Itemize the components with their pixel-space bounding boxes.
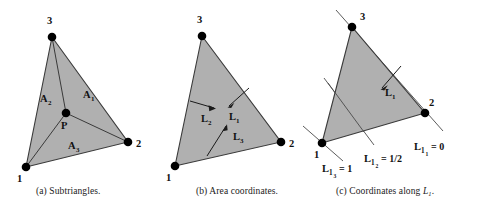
panel-a-vertex-2-label: 2	[136, 138, 141, 149]
panel-a-vertex-1-dot	[22, 163, 31, 172]
panel-c-level-l11-letter: L	[414, 141, 421, 152]
panel-a-vertex-3-dot	[48, 33, 57, 42]
panel-c-level-l12-value: = 1/2	[381, 153, 402, 164]
caption-b-prefix: (b)	[196, 186, 207, 196]
panel-a-area-a1-subscript: 1	[91, 95, 95, 103]
panel-b-vertex-3-label: 3	[197, 14, 202, 25]
panel-a-point-p-dot	[62, 109, 71, 118]
caption-panel-c: (c) Coordinates along L1.	[336, 186, 434, 197]
panel-c-gradient-l1-letter: L	[385, 87, 392, 98]
panel-b-coord-l1-subscript: 1	[236, 117, 240, 125]
panel-c-level-label-l11: L 1 1 = 0	[414, 141, 444, 157]
panel-c-coordinates-along-l1: 1 2 3 L 1 L 1 3 = 1 L 1 2 = 1/2 L 1 1 = …	[303, 10, 444, 179]
caption-panel-a: (a) Subtriangles.	[36, 186, 101, 196]
panel-c-vertex-1-dot	[318, 139, 327, 148]
panel-c-gradient-l1-subscript: 1	[392, 93, 396, 101]
caption-c-prefix: (c)	[336, 186, 347, 196]
panel-a-area-a3-letter: A	[68, 140, 76, 151]
panel-a-area-a1-letter: A	[83, 89, 91, 100]
panel-c-vertex-2-dot	[421, 109, 430, 118]
panel-c-level-l11-subscript: 1	[421, 147, 425, 155]
panel-c-level-l13-letter: L	[322, 163, 329, 174]
panel-a-point-p-label: P	[61, 120, 68, 131]
caption-panel-b: (b) Area coordinates.	[196, 186, 278, 196]
panel-c-vertex-3-label: 3	[360, 11, 365, 22]
panel-b-vertex-1-label: 1	[166, 172, 171, 183]
panel-b-coord-l3-letter: L	[233, 131, 240, 142]
panel-a-area-a3-subscript: 3	[76, 146, 80, 154]
panel-c-level-label-l12: L 1 2 = 1/2	[364, 153, 402, 169]
caption-c-text: Coordinates along	[349, 186, 420, 196]
panel-c-level-label-l13: L 1 3 = 1	[322, 163, 352, 179]
panel-b-coord-l2-letter: L	[201, 113, 208, 124]
panel-c-level-l13-subscript: 1	[329, 169, 333, 177]
panel-b-coord-l3-subscript: 3	[240, 137, 244, 145]
panel-c-level-l11-subsubscript: 1	[426, 151, 429, 157]
panel-b-vertex-2-dot	[277, 138, 286, 147]
panel-b-vertex-1-dot	[171, 162, 180, 171]
panel-b-area-coordinates: 1 2 3 L 1 L 2 L 3	[166, 14, 294, 183]
panel-c-level-l11-value: = 0	[431, 141, 444, 152]
panel-a-area-a2-subscript: 2	[48, 99, 52, 107]
panel-c-triangle	[322, 27, 425, 143]
panel-a-subtriangles: 1 2 3 P A 1 A 2 A 3	[17, 15, 141, 184]
panel-b-coord-l1-letter: L	[229, 111, 236, 122]
caption-c-suffix: .	[432, 186, 434, 196]
caption-b-text: Area coordinates.	[209, 186, 278, 196]
panel-a-vertex-3-label: 3	[47, 15, 52, 26]
panel-c-level-l12-letter: L	[364, 153, 371, 164]
figure-canvas: 1 2 3 P A 1 A 2 A 3 1 2 3	[0, 0, 477, 209]
panel-c-level-l13-subsubscript: 3	[334, 173, 337, 179]
panel-c-vertex-3-dot	[348, 23, 357, 32]
panel-b-coord-l2-subscript: 2	[208, 119, 212, 127]
panel-c-vertex-2-label: 2	[429, 97, 434, 108]
panel-c-level-l12-subscript: 1	[371, 159, 375, 167]
panel-a-vertex-1-label: 1	[17, 173, 22, 184]
panel-b-vertex-2-label: 2	[289, 138, 294, 149]
panel-a-area-a2-letter: A	[40, 93, 48, 104]
caption-a-text: Subtriangles.	[49, 186, 100, 196]
panel-c-level-l13-value: = 1	[339, 163, 352, 174]
caption-a-prefix: (a)	[36, 186, 47, 196]
panel-c-level-l12-subsubscript: 2	[376, 163, 379, 169]
triangle-area-coordinates-figure: 1 2 3 P A 1 A 2 A 3 1 2 3	[0, 0, 477, 209]
panel-b-vertex-3-dot	[198, 32, 207, 41]
panel-a-vertex-2-dot	[124, 138, 133, 147]
panel-c-vertex-1-label: 1	[314, 149, 319, 160]
